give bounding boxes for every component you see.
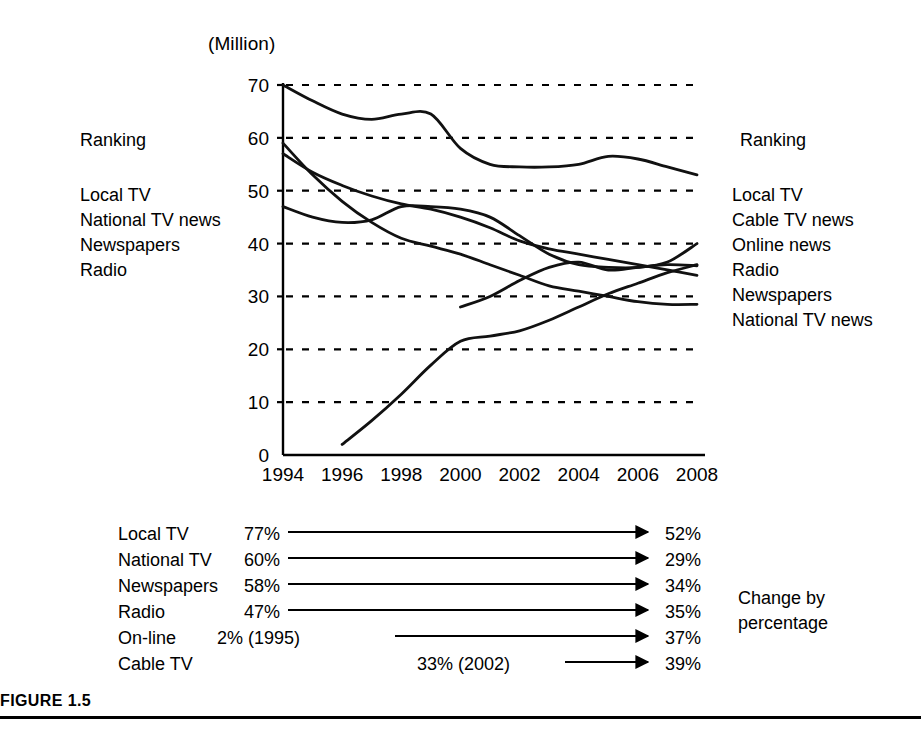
change-start-value-5: 33% (2002) (380, 654, 510, 675)
change-row-label-4: On-line (118, 628, 176, 649)
change-row-label-3: Radio (118, 602, 165, 623)
x-axis-tick-labels: 19941996199820002002200420062008 (262, 464, 718, 485)
change-start-value-4: 2% (1995) (170, 628, 300, 649)
x-tick-label: 1994 (262, 464, 305, 485)
x-tick-label: 2008 (676, 464, 718, 485)
grid-lines (286, 85, 700, 402)
series-lines (283, 85, 697, 444)
x-tick-label: 1998 (380, 464, 422, 485)
y-tick-label: 20 (248, 339, 269, 360)
series-line (342, 265, 697, 445)
change-end-value-5: 39% (665, 654, 701, 675)
x-tick-label: 2006 (617, 464, 659, 485)
change-caption-line-2: percentage (738, 611, 828, 636)
x-tick-label: 2002 (498, 464, 540, 485)
caption-divider (0, 716, 921, 719)
series-line (283, 85, 697, 175)
change-start-value-1: 60% (170, 550, 280, 571)
y-tick-label: 0 (258, 445, 269, 466)
change-end-value-2: 34% (665, 576, 701, 597)
y-tick-label: 30 (248, 286, 269, 307)
y-axis-tick-labels: 010203040506070 (248, 75, 269, 466)
change-start-value-2: 58% (170, 576, 280, 597)
change-table-caption: Change by percentage (738, 586, 828, 636)
x-tick-label: 1996 (321, 464, 363, 485)
change-start-value-3: 47% (170, 602, 280, 623)
change-end-value-4: 37% (665, 628, 701, 649)
y-tick-label: 50 (248, 181, 269, 202)
change-by-percentage-table: Local TV National TV Newspapers Radio On… (0, 524, 921, 684)
x-tick-label: 2000 (439, 464, 481, 485)
change-end-value-0: 52% (665, 524, 701, 545)
line-chart: 010203040506070 199419961998200020022004… (0, 0, 921, 500)
figure-caption: FIGURE 1.5 (0, 692, 91, 710)
change-start-value-0: 77% (170, 524, 280, 545)
x-tick-label: 2004 (558, 464, 601, 485)
y-tick-label: 70 (248, 75, 269, 96)
change-caption-line-1: Change by (738, 586, 828, 611)
series-line (283, 154, 697, 276)
y-tick-label: 60 (248, 128, 269, 149)
figure-container: (Million) Ranking Local TV National TV n… (0, 0, 921, 738)
y-tick-label: 10 (248, 392, 269, 413)
change-row-label-5: Cable TV (118, 654, 193, 675)
y-tick-label: 40 (248, 234, 269, 255)
change-end-value-1: 29% (665, 550, 701, 571)
change-end-value-3: 35% (665, 602, 701, 623)
series-line (283, 205, 697, 267)
